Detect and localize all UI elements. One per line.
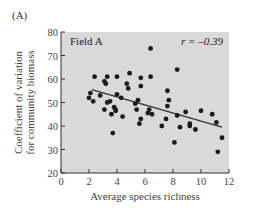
data-point <box>210 112 215 117</box>
data-point <box>134 107 139 112</box>
data-point <box>148 46 153 51</box>
data-point <box>166 98 171 103</box>
data-point <box>199 108 204 113</box>
data-point <box>165 104 170 109</box>
data-point <box>138 84 143 89</box>
data-point <box>108 99 113 104</box>
data-point <box>127 71 132 76</box>
x-tick-label: 2 <box>86 176 91 187</box>
data-point <box>165 88 170 93</box>
y-axis-title-line: Coefficient of variation <box>12 50 24 154</box>
x-axis-title: Average species richness <box>90 190 200 202</box>
y-tick-label: 30 <box>48 145 59 156</box>
x-tick-label: 0 <box>58 176 63 187</box>
data-point <box>120 114 125 119</box>
y-tick-label: 70 <box>48 51 59 62</box>
chart-title: Field A <box>70 35 103 47</box>
correlation-annotation: r = –0.39 <box>181 35 223 47</box>
data-point <box>105 74 110 79</box>
data-point <box>102 107 107 112</box>
data-point <box>178 125 183 130</box>
data-point <box>119 95 124 100</box>
y-tick-label: 80 <box>48 27 59 38</box>
data-point <box>175 113 180 118</box>
data-point <box>193 127 198 132</box>
data-point <box>159 124 164 129</box>
data-point <box>103 81 108 86</box>
x-tick-label: 10 <box>196 176 207 187</box>
data-point <box>124 81 129 86</box>
data-point <box>98 93 103 98</box>
data-point <box>220 135 225 140</box>
x-tick-label: 12 <box>224 176 235 187</box>
data-point <box>148 74 153 79</box>
data-point <box>164 117 169 122</box>
y-axis-title-line: for community biomass <box>24 50 36 155</box>
x-tick-label: 8 <box>170 176 175 187</box>
data-point <box>109 112 114 117</box>
y-axis-title: Coefficient of variationfor community bi… <box>12 50 36 155</box>
data-point <box>214 120 219 125</box>
data-point <box>172 140 177 145</box>
data-point <box>126 86 131 91</box>
data-point <box>187 124 192 129</box>
data-point <box>113 107 118 112</box>
data-point <box>147 107 152 112</box>
data-point <box>115 74 120 79</box>
data-point <box>215 149 220 154</box>
data-point <box>175 67 180 72</box>
data-point <box>115 92 120 97</box>
y-tick-label: 50 <box>48 98 59 109</box>
y-tick-label: 20 <box>48 168 59 179</box>
y-tick-label: 60 <box>48 74 59 85</box>
data-point <box>138 75 143 80</box>
data-point <box>150 112 155 117</box>
data-point <box>110 131 115 136</box>
plot-area <box>61 32 229 173</box>
data-point <box>137 121 142 126</box>
panel-label: (A) <box>12 9 28 22</box>
data-point <box>138 117 143 122</box>
x-tick-label: 4 <box>114 176 120 187</box>
data-point <box>92 74 97 79</box>
data-point <box>91 99 96 104</box>
scatter-chart: (A) 02468101220304050607080 Field A r = … <box>0 0 254 215</box>
data-point <box>183 110 188 115</box>
data-point <box>136 98 141 103</box>
y-tick-label: 40 <box>48 121 59 132</box>
data-point <box>87 95 92 100</box>
data-point <box>88 91 93 96</box>
x-tick-label: 6 <box>142 176 147 187</box>
